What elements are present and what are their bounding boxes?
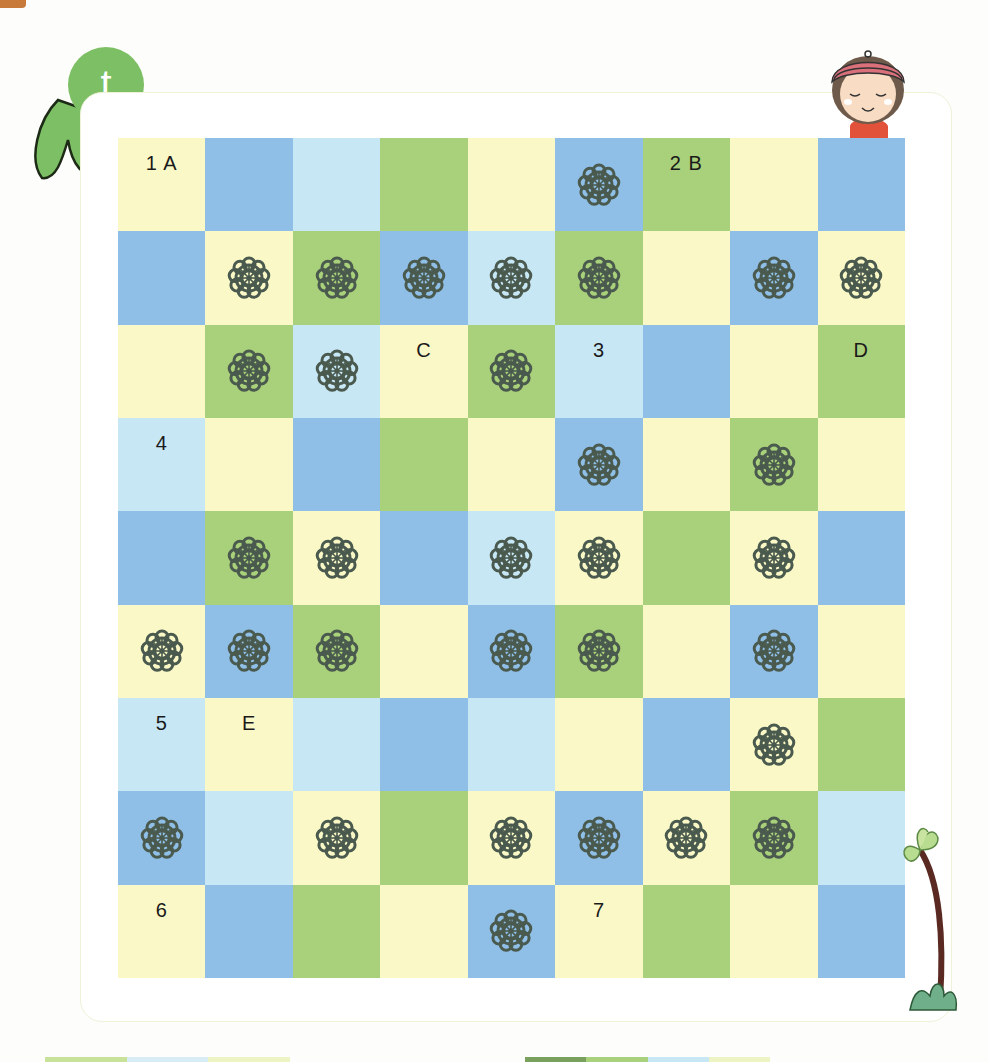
board-cell-r4-c1[interactable] <box>205 511 292 604</box>
board-cell-r1-c3[interactable] <box>380 231 467 324</box>
board-cell-r1-c2[interactable] <box>293 231 380 324</box>
board-cell-r8-c1[interactable] <box>205 885 292 978</box>
board-cell-r6-c8[interactable] <box>818 698 905 791</box>
board-cell-r6-c5[interactable] <box>555 698 642 791</box>
board-cell-r0-c4[interactable] <box>468 138 555 231</box>
board-cell-r6-c3[interactable] <box>380 698 467 791</box>
lace-flower-icon <box>488 815 534 861</box>
board-cell-r4-c6[interactable] <box>643 511 730 604</box>
board-cell-r6-c0[interactable]: 5 <box>118 698 205 791</box>
board-cell-r7-c3[interactable] <box>380 791 467 884</box>
board-cell-r8-c4[interactable] <box>468 885 555 978</box>
board-cell-r1-c6[interactable] <box>643 231 730 324</box>
board-cell-r5-c5[interactable] <box>555 605 642 698</box>
board-cell-r7-c5[interactable] <box>555 791 642 884</box>
board-cell-r0-c5[interactable] <box>555 138 642 231</box>
lace-flower-icon <box>576 815 622 861</box>
lace-flower-icon <box>139 815 185 861</box>
board-cell-r0-c8[interactable] <box>818 138 905 231</box>
board-cell-r7-c4[interactable] <box>468 791 555 884</box>
board-cell-r5-c6[interactable] <box>643 605 730 698</box>
board-cell-r8-c7[interactable] <box>730 885 817 978</box>
board-cell-r0-c2[interactable] <box>293 138 380 231</box>
board-cell-r8-c8[interactable] <box>818 885 905 978</box>
board-cell-r6-c6[interactable] <box>643 698 730 791</box>
board-cell-r1-c0[interactable] <box>118 231 205 324</box>
board-cell-r2-c8[interactable]: D <box>818 325 905 418</box>
board-cell-r0-c0[interactable]: 1 A <box>118 138 205 231</box>
cell-label: C <box>380 339 467 362</box>
board-cell-r4-c5[interactable] <box>555 511 642 604</box>
lace-flower-icon <box>314 535 360 581</box>
board-cell-r8-c3[interactable] <box>380 885 467 978</box>
board-cell-r2-c6[interactable] <box>643 325 730 418</box>
board-cell-r5-c2[interactable] <box>293 605 380 698</box>
board-cell-r3-c0[interactable]: 4 <box>118 418 205 511</box>
board-cell-r5-c4[interactable] <box>468 605 555 698</box>
board-cell-r1-c5[interactable] <box>555 231 642 324</box>
board-cell-r5-c1[interactable] <box>205 605 292 698</box>
sprout-plant-icon <box>900 820 960 1020</box>
board-cell-r8-c2[interactable] <box>293 885 380 978</box>
board-cell-r2-c3[interactable]: C <box>380 325 467 418</box>
board-cell-r6-c4[interactable] <box>468 698 555 791</box>
board-cell-r1-c1[interactable] <box>205 231 292 324</box>
board-cell-r2-c5[interactable]: 3 <box>555 325 642 418</box>
board-cell-r0-c1[interactable] <box>205 138 292 231</box>
board-cell-r2-c0[interactable] <box>118 325 205 418</box>
board-cell-r0-c7[interactable] <box>730 138 817 231</box>
board-cell-r8-c5[interactable]: 7 <box>555 885 642 978</box>
board-cell-r0-c6[interactable]: 2 B <box>643 138 730 231</box>
lace-flower-icon <box>488 628 534 674</box>
board-cell-r5-c3[interactable] <box>380 605 467 698</box>
board-cell-r3-c1[interactable] <box>205 418 292 511</box>
lace-flower-icon <box>576 442 622 488</box>
board-cell-r3-c5[interactable] <box>555 418 642 511</box>
board-cell-r8-c6[interactable] <box>643 885 730 978</box>
board-cell-r3-c6[interactable] <box>643 418 730 511</box>
lace-flower-icon <box>751 535 797 581</box>
board-cell-r1-c4[interactable] <box>468 231 555 324</box>
lace-flower-icon <box>576 628 622 674</box>
board-cell-r0-c3[interactable] <box>380 138 467 231</box>
board-cell-r3-c3[interactable] <box>380 418 467 511</box>
board-cell-r4-c0[interactable] <box>118 511 205 604</box>
lace-flower-icon <box>488 348 534 394</box>
board-cell-r5-c0[interactable] <box>118 605 205 698</box>
board-cell-r2-c7[interactable] <box>730 325 817 418</box>
board-cell-r5-c7[interactable] <box>730 605 817 698</box>
lace-flower-icon <box>488 255 534 301</box>
board-cell-r7-c6[interactable] <box>643 791 730 884</box>
board-cell-r7-c7[interactable] <box>730 791 817 884</box>
board-cell-r6-c2[interactable] <box>293 698 380 791</box>
board-cell-r1-c7[interactable] <box>730 231 817 324</box>
board-cell-r3-c8[interactable] <box>818 418 905 511</box>
board-cell-r7-c8[interactable] <box>818 791 905 884</box>
board-cell-r8-c0[interactable]: 6 <box>118 885 205 978</box>
board-cell-r2-c2[interactable] <box>293 325 380 418</box>
board-cell-r2-c1[interactable] <box>205 325 292 418</box>
board-cell-r4-c8[interactable] <box>818 511 905 604</box>
cell-label: 7 <box>555 899 642 922</box>
board-cell-r4-c7[interactable] <box>730 511 817 604</box>
lace-flower-icon <box>751 442 797 488</box>
board-cell-r7-c1[interactable] <box>205 791 292 884</box>
cell-label: 6 <box>118 899 205 922</box>
lace-flower-icon <box>139 628 185 674</box>
game-board-grid: 1 A 2 B <box>118 138 905 978</box>
cell-label: 2 B <box>643 152 730 175</box>
board-cell-r1-c8[interactable] <box>818 231 905 324</box>
board-cell-r4-c4[interactable] <box>468 511 555 604</box>
board-cell-r3-c2[interactable] <box>293 418 380 511</box>
board-cell-r4-c3[interactable] <box>380 511 467 604</box>
board-cell-r2-c4[interactable] <box>468 325 555 418</box>
board-cell-r7-c2[interactable] <box>293 791 380 884</box>
lace-flower-icon <box>314 348 360 394</box>
board-cell-r6-c1[interactable]: E <box>205 698 292 791</box>
board-cell-r5-c8[interactable] <box>818 605 905 698</box>
board-cell-r6-c7[interactable] <box>730 698 817 791</box>
board-cell-r7-c0[interactable] <box>118 791 205 884</box>
board-cell-r3-c7[interactable] <box>730 418 817 511</box>
board-cell-r4-c2[interactable] <box>293 511 380 604</box>
board-cell-r3-c4[interactable] <box>468 418 555 511</box>
